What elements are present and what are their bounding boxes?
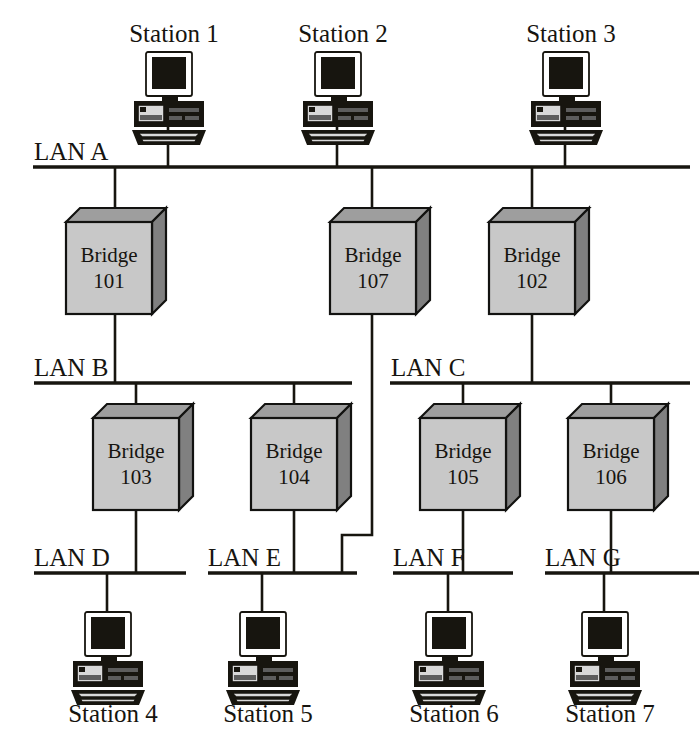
desktop-computer-icon xyxy=(301,52,375,145)
bridge-101-side xyxy=(152,208,166,314)
desktop-computer-icon xyxy=(568,612,642,705)
bridge-103-top xyxy=(93,404,193,418)
bridge-103-face xyxy=(93,418,179,510)
bridge-106-top xyxy=(568,404,668,418)
bridge-107-name: Bridge xyxy=(344,243,401,267)
bridge-105-side xyxy=(506,404,520,510)
lan-c-label: LAN C xyxy=(391,354,465,381)
bridge-104-name: Bridge xyxy=(265,439,322,463)
bridge-105-name: Bridge xyxy=(434,439,491,463)
station-6-label: Station 6 xyxy=(409,700,499,727)
bridge-106-number: 106 xyxy=(595,465,627,489)
bridge-104-side xyxy=(337,404,351,510)
bridge-101-top xyxy=(66,208,166,222)
bridge-107-side xyxy=(416,208,430,314)
lan-g-label: LAN G xyxy=(545,544,621,571)
bridge-107-face xyxy=(330,222,416,314)
bridge-104-face xyxy=(251,418,337,510)
bridge-103-side xyxy=(179,404,193,510)
station-1-label: Station 1 xyxy=(129,20,219,47)
lan-a-label: LAN A xyxy=(34,138,108,165)
lan-e-label: LAN E xyxy=(208,544,281,571)
bridge-104-top xyxy=(251,404,351,418)
station-4-label: Station 4 xyxy=(68,700,158,727)
bridge-102[interactable]: Bridge 102 xyxy=(489,208,589,314)
desktop-computer-icon xyxy=(71,612,145,705)
bridges: Bridge 101 Bridge 107 Bridge 102 xyxy=(66,208,668,510)
bridge-104[interactable]: Bridge 104 xyxy=(251,404,351,510)
bridge-102-name: Bridge xyxy=(503,243,560,267)
bridge-106-face xyxy=(568,418,654,510)
bridge-104-number: 104 xyxy=(278,465,310,489)
bridge-101-face xyxy=(66,222,152,314)
bridge-106[interactable]: Bridge 106 xyxy=(568,404,668,510)
bridge-107[interactable]: Bridge 107 xyxy=(330,208,430,314)
bridge-106-side xyxy=(654,404,668,510)
lan-d-label: LAN D xyxy=(34,544,110,571)
station-2-label: Station 2 xyxy=(298,20,388,47)
station-6[interactable]: Station 6 xyxy=(409,612,499,727)
lan-f-label: LAN F xyxy=(393,544,465,571)
station-2[interactable]: Station 2 xyxy=(298,20,388,145)
bridge-105-face xyxy=(420,418,506,510)
bridge-101[interactable]: Bridge 101 xyxy=(66,208,166,314)
station-7[interactable]: Station 7 xyxy=(565,612,655,727)
bridge-102-number: 102 xyxy=(516,269,548,293)
bridge-105-top xyxy=(420,404,520,418)
bridge-103-name: Bridge xyxy=(107,439,164,463)
bridge-103[interactable]: Bridge 103 xyxy=(93,404,193,510)
desktop-computer-icon xyxy=(132,52,206,145)
stations: Station 1 Station 2 Station 3 Station 4 xyxy=(68,20,655,727)
bridge-105-number: 105 xyxy=(447,465,479,489)
diagram-canvas: LAN A LAN B LAN C LAN D LAN E LAN F LAN … xyxy=(0,0,699,742)
bridge-102-side xyxy=(575,208,589,314)
bridge-106-name: Bridge xyxy=(582,439,639,463)
bridge-101-name: Bridge xyxy=(80,243,137,267)
bridge-107-number: 107 xyxy=(357,269,389,293)
station-1[interactable]: Station 1 xyxy=(129,20,219,145)
lan-b-label: LAN B xyxy=(34,354,108,381)
station-3[interactable]: Station 3 xyxy=(526,20,616,145)
station-5-label: Station 5 xyxy=(223,700,313,727)
station-7-label: Station 7 xyxy=(565,700,655,727)
desktop-computer-icon xyxy=(529,52,603,145)
bridge-102-top xyxy=(489,208,589,222)
bridge-105[interactable]: Bridge 105 xyxy=(420,404,520,510)
desktop-computer-icon xyxy=(412,612,486,705)
station-3-label: Station 3 xyxy=(526,20,616,47)
desktop-computer-icon xyxy=(226,612,300,705)
network-links xyxy=(107,124,611,614)
bridge-101-number: 101 xyxy=(93,269,125,293)
network-topology-diagram: LAN A LAN B LAN C LAN D LAN E LAN F LAN … xyxy=(0,0,699,742)
bridge-102-face xyxy=(489,222,575,314)
bridge-107-top xyxy=(330,208,430,222)
station-4[interactable]: Station 4 xyxy=(68,612,158,727)
bridge-103-number: 103 xyxy=(120,465,152,489)
station-5[interactable]: Station 5 xyxy=(223,612,313,727)
